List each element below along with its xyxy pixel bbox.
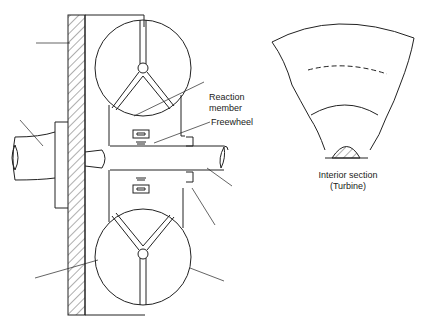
torque-converter-diagram (0, 0, 431, 323)
interior-section-label: Interior section (Turbine) (308, 170, 388, 192)
reaction-member-label: Reaction member (209, 92, 245, 114)
upper-torus (95, 20, 191, 146)
reaction-member-label-line1: Reaction (209, 92, 245, 103)
freewheel-label: Freewheel (211, 117, 253, 128)
casing-wall (68, 15, 85, 315)
leader-lines (20, 43, 232, 281)
interior-turbine-section (272, 24, 414, 158)
interior-section-label-line1: Interior section (308, 170, 388, 181)
interior-section-label-line2: (Turbine) (308, 181, 388, 192)
reaction-member-label-line2: member (209, 103, 245, 114)
input-shaft (12, 132, 55, 180)
output-shaft (110, 146, 228, 170)
